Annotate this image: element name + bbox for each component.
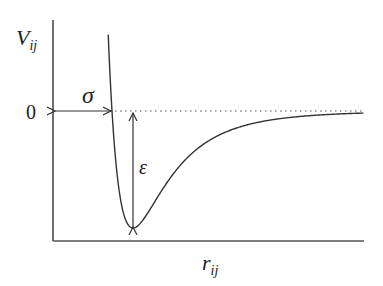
zero-label: 0 xyxy=(26,101,36,123)
x-axis-label: rij xyxy=(202,250,218,278)
epsilon-label: ε xyxy=(139,156,147,178)
potential-curve xyxy=(108,35,363,228)
sigma-label: σ xyxy=(82,82,95,108)
lj-potential-diagram: Vij 0 σ ε rij xyxy=(0,0,383,286)
y-axis-label: Vij xyxy=(16,25,37,53)
